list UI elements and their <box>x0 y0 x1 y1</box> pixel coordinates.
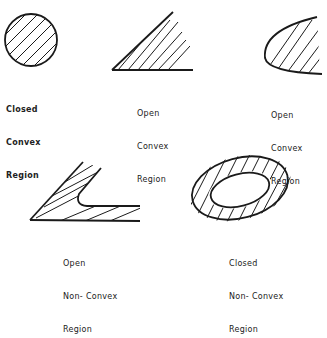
label-open-non-convex: Open Non- Convex Region <box>63 236 117 338</box>
label-closed-non-convex: Closed Non- Convex Region <box>229 236 283 338</box>
open-convex-curve-shape <box>265 17 322 74</box>
label-line: Non- Convex <box>229 291 283 302</box>
label-line: Region <box>6 170 41 181</box>
label-line: Open <box>271 110 303 121</box>
closed-convex-shape <box>0 0 100 85</box>
label-line: Region <box>271 176 303 187</box>
open-convex-wedge-shape <box>112 12 193 70</box>
label-line: Closed <box>6 104 41 115</box>
label-line: Convex <box>271 143 303 154</box>
label-line: Closed <box>229 258 283 269</box>
label-open-convex-wedge: Open Convex Region <box>137 86 169 196</box>
label-line: Non- Convex <box>63 291 117 302</box>
label-line: Region <box>63 324 117 335</box>
label-closed-convex: Closed Convex Region <box>6 82 41 192</box>
label-line: Open <box>137 108 169 119</box>
label-line: Region <box>137 174 169 185</box>
label-open-convex-curve: Open Convex Region <box>271 88 303 198</box>
label-line: Convex <box>6 137 41 148</box>
label-line: Open <box>63 258 117 269</box>
label-line: Convex <box>137 141 169 152</box>
label-line: Region <box>229 324 283 335</box>
open-non-convex-shape <box>30 162 150 221</box>
